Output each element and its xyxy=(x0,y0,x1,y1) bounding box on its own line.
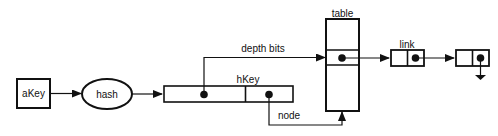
hash-label: hash xyxy=(96,89,118,100)
table-node: table xyxy=(326,8,359,111)
hkey-label: hKey xyxy=(237,74,260,85)
hkey-node: hKey xyxy=(164,74,293,102)
node-label: node xyxy=(278,110,301,121)
link-node-1: link xyxy=(391,39,424,66)
hash-table-diagram: aKey hash hKey depth bits node table xyxy=(0,0,498,136)
link-label: link xyxy=(399,39,415,50)
table-label: table xyxy=(332,8,354,19)
akey-node: aKey xyxy=(17,79,50,108)
depth-bits-label: depth bits xyxy=(241,43,284,54)
akey-label: aKey xyxy=(22,88,45,99)
link-node-2 xyxy=(456,50,489,66)
hash-node: hash xyxy=(82,79,132,109)
